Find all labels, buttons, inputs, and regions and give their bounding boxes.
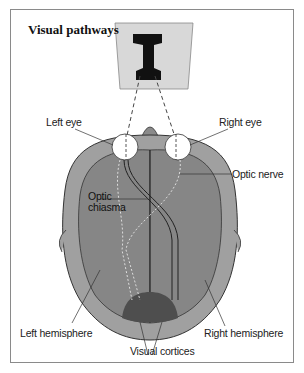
label-optic-chiasma-2: chiasma (88, 201, 126, 213)
label-optic-nerve: Optic nerve (232, 168, 284, 180)
label-right-eye: Right eye (219, 116, 262, 128)
label-left-hemisphere: Left hemisphere (20, 327, 92, 339)
label-visual-cortices: Visual cortices (130, 345, 195, 357)
right-eye-shape (165, 134, 191, 160)
left-eye-shape (112, 134, 138, 160)
diagram-title: Visual pathways (28, 22, 119, 38)
visual-pathways-diagram (0, 0, 304, 373)
label-right-hemisphere: Right hemisphere (204, 327, 283, 339)
label-left-eye: Left eye (46, 116, 82, 128)
